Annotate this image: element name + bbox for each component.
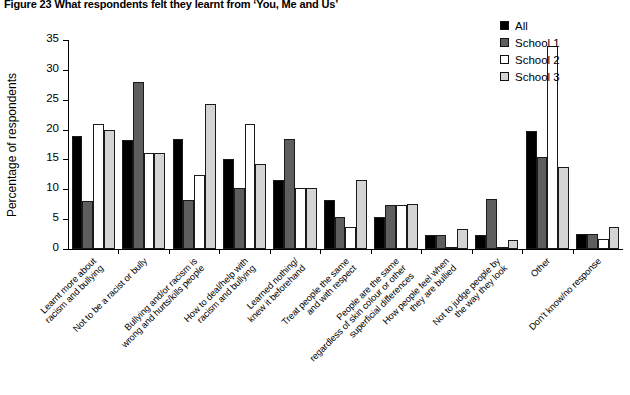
bar[interactable]: [497, 247, 508, 249]
bar[interactable]: [306, 188, 317, 250]
bar[interactable]: [576, 234, 587, 249]
bar[interactable]: [457, 229, 468, 249]
x-tick: [573, 249, 574, 254]
legend-swatch-icon: [500, 21, 509, 30]
bar-group: [421, 40, 471, 249]
bar[interactable]: [356, 180, 367, 249]
bar[interactable]: [245, 124, 256, 249]
bar[interactable]: [72, 136, 83, 249]
bar-group: [68, 40, 118, 249]
y-tick-label: 15: [46, 151, 59, 163]
y-tick-label: 10: [46, 181, 59, 193]
bar[interactable]: [194, 175, 205, 249]
bar-group: [320, 40, 370, 249]
y-tick-label: 30: [46, 62, 59, 74]
x-tick: [421, 249, 422, 254]
x-tick: [169, 249, 170, 254]
bar[interactable]: [223, 159, 234, 249]
bar[interactable]: [154, 153, 165, 249]
bar[interactable]: [526, 131, 537, 249]
legend-label: All: [515, 20, 528, 32]
bar[interactable]: [537, 157, 548, 249]
legend-label: School 1: [515, 37, 560, 49]
y-tick-label: 5: [53, 211, 59, 223]
bar[interactable]: [335, 217, 346, 249]
y-tick: 0: [63, 249, 68, 250]
bar[interactable]: [385, 205, 396, 249]
bar[interactable]: [324, 200, 335, 249]
y-tick-label: 35: [46, 32, 59, 44]
bar[interactable]: [475, 235, 486, 249]
legend-swatch-icon: [500, 72, 509, 81]
legend-item[interactable]: School 2: [500, 52, 560, 67]
bar[interactable]: [558, 167, 569, 249]
x-tick: [118, 249, 119, 254]
y-tick-label: 25: [46, 92, 59, 104]
legend-item[interactable]: School 3: [500, 69, 560, 84]
bar-group: [219, 40, 269, 249]
y-tick-label: 20: [46, 122, 59, 134]
legend-swatch-icon: [500, 55, 509, 64]
bar[interactable]: [587, 234, 598, 249]
x-tick: [270, 249, 271, 254]
x-tick: [371, 249, 372, 254]
bar[interactable]: [205, 104, 216, 249]
bar[interactable]: [93, 124, 104, 249]
chart-legend: AllSchool 1School 2School 3: [500, 18, 560, 86]
bar[interactable]: [407, 204, 418, 249]
y-tick-label: 0: [53, 241, 59, 253]
bar[interactable]: [122, 140, 133, 249]
x-tick: [219, 249, 220, 254]
bar[interactable]: [183, 200, 194, 249]
bar[interactable]: [609, 227, 620, 249]
bar[interactable]: [133, 82, 144, 249]
x-tick: [522, 249, 523, 254]
bar[interactable]: [508, 240, 519, 249]
x-tick: [472, 249, 473, 254]
bar[interactable]: [82, 201, 93, 249]
bar-group: [118, 40, 168, 249]
legend-label: School 3: [515, 71, 560, 83]
bar-group: [169, 40, 219, 249]
bar[interactable]: [144, 153, 155, 249]
x-axis-line: [68, 249, 623, 250]
figure-title: Figure 23 What respondents felt they lea…: [4, 0, 338, 10]
bar[interactable]: [345, 227, 356, 249]
bar[interactable]: [598, 239, 609, 249]
bar[interactable]: [284, 139, 295, 249]
bar[interactable]: [295, 188, 306, 249]
bar[interactable]: [446, 247, 457, 249]
bar[interactable]: [173, 139, 184, 249]
bar[interactable]: [234, 188, 245, 249]
legend-label: School 2: [515, 54, 560, 66]
bar[interactable]: [486, 199, 497, 249]
bar[interactable]: [425, 235, 436, 249]
bar[interactable]: [273, 180, 284, 249]
x-tick: [320, 249, 321, 254]
legend-swatch-icon: [500, 38, 509, 47]
bar[interactable]: [374, 217, 385, 249]
bar[interactable]: [396, 205, 407, 249]
bar[interactable]: [104, 130, 115, 249]
bar-group: [573, 40, 623, 249]
bar-group: [371, 40, 421, 249]
bar[interactable]: [255, 164, 266, 249]
y-axis-title: Percentage of respondents: [5, 73, 19, 217]
legend-item[interactable]: School 1: [500, 35, 560, 50]
bar[interactable]: [436, 235, 447, 249]
legend-item[interactable]: All: [500, 18, 560, 33]
bar-group: [270, 40, 320, 249]
